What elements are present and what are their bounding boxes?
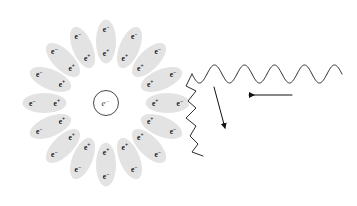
incident-photon-wave: [192, 65, 342, 83]
physics-figure: e−e+e−e+e−e+e−e+e−e+e−e+e−e+e−e+e−e+e−e+…: [0, 0, 357, 206]
figure-canvas: e−e+e−e+e−e+e−e+e−e+e−e+e−e+e−e+e−e+e−e+…: [0, 0, 357, 206]
central-electron-group: e−: [94, 91, 119, 116]
scattered-photon-wave: [186, 74, 203, 156]
scattered-direction-arrow: [214, 87, 225, 128]
